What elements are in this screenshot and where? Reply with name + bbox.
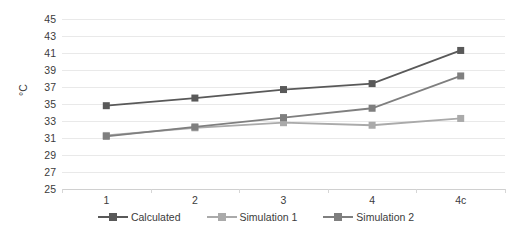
legend-label: Simulation 2: [356, 211, 414, 223]
y-axis-tick-label: 29: [6, 150, 56, 160]
gridline: [62, 36, 505, 37]
x-axis-tick-label: 2: [165, 194, 225, 206]
x-axis-tick: [62, 189, 63, 193]
y-axis-tick-label: 41: [6, 48, 56, 58]
y-axis-title: °C: [17, 84, 29, 96]
gridline: [62, 19, 505, 20]
legend-item[interactable]: Calculated: [98, 211, 181, 223]
legend-item[interactable]: Simulation 2: [323, 211, 414, 223]
line-chart: 4543413937353331292725 °C 12344c Calcula…: [0, 0, 512, 240]
gridline: [62, 138, 505, 139]
gridline: [62, 87, 505, 88]
y-axis-tick-label: 35: [6, 99, 56, 109]
legend-item[interactable]: Simulation 1: [207, 211, 298, 223]
gridline: [62, 53, 505, 54]
x-axis-tick: [151, 189, 152, 193]
legend-label: Calculated: [131, 211, 181, 223]
y-axis-tick-labels: 4543413937353331292725: [0, 0, 56, 240]
legend-swatch-icon: [98, 212, 128, 222]
x-axis-tick-label: 4: [342, 194, 402, 206]
x-axis-tick-label: 1: [76, 194, 136, 206]
y-axis-tick-label: 25: [6, 184, 56, 194]
x-axis-tick: [239, 189, 240, 193]
y-axis-tick-label: 27: [6, 167, 56, 177]
y-axis-tick-label: 33: [6, 116, 56, 126]
y-axis-tick-label: 43: [6, 31, 56, 41]
legend-swatch-icon: [207, 212, 237, 222]
y-axis-tick-label: 39: [6, 65, 56, 75]
plot-area: [62, 19, 505, 189]
gridline: [62, 104, 505, 105]
y-axis-tick-label: 31: [6, 133, 56, 143]
x-axis-tick: [416, 189, 417, 193]
x-axis-tick-label: 4c: [431, 194, 491, 206]
y-axis-tick-label: 45: [6, 14, 56, 24]
gridline: [62, 121, 505, 122]
gridline: [62, 172, 505, 173]
y-axis-tick-label: 37: [6, 82, 56, 92]
x-axis-tick: [328, 189, 329, 193]
gridline: [62, 70, 505, 71]
legend-label: Simulation 1: [240, 211, 298, 223]
chart-legend: CalculatedSimulation 1Simulation 2: [0, 211, 512, 223]
x-axis-tick: [505, 189, 506, 193]
legend-swatch-icon: [323, 212, 353, 222]
gridline: [62, 155, 505, 156]
x-axis-line: [62, 189, 505, 190]
x-axis-tick-label: 3: [254, 194, 314, 206]
